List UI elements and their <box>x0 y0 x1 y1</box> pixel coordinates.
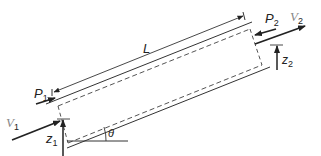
inclined-pipe-diagram: θ P1 V1 z1 P2 V2 <box>0 0 321 156</box>
length-label: L <box>143 41 150 56</box>
outlet-pressure: P2 <box>255 11 279 35</box>
v2-label: V2 <box>290 9 303 26</box>
z2-label: z2 <box>281 53 293 69</box>
z1-label: z1 <box>45 131 58 148</box>
outlet-velocity: V2 <box>255 9 305 44</box>
pipe-top-wall <box>46 22 252 104</box>
p1-label: P1 <box>34 86 48 103</box>
angle-reference: θ <box>67 127 128 141</box>
pipe-bottom-dashed <box>68 65 262 143</box>
outlet-elevation: z2 <box>270 45 293 70</box>
pipe <box>46 22 270 148</box>
p2-label: P2 <box>265 11 279 28</box>
angle-label: θ <box>108 127 114 139</box>
v1-label: V1 <box>6 115 19 132</box>
pipe-bottom-wall <box>67 67 270 148</box>
pipe-top-dashed <box>58 29 250 106</box>
